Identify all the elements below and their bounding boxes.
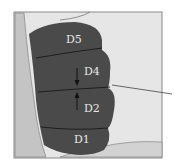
label-d5: D5 [66,33,82,46]
label-d4: D4 [84,65,100,78]
label-d2: D2 [84,102,100,115]
label-d1: D1 [74,133,90,146]
diagram-canvas: D5 D4 D2 D1 [0,0,174,168]
